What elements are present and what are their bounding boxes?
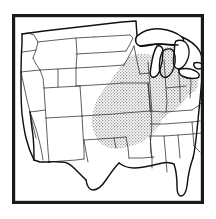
us-outline-map <box>0 0 216 219</box>
thematic-map-figure: Outline map of the contiguous United Sta… <box>0 0 216 219</box>
